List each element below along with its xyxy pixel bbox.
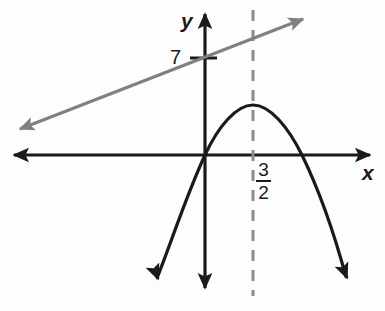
fraction-numerator: 3 — [256, 160, 271, 180]
parabola-right-branch-arrow — [345, 273, 347, 278]
graph-figure: y x 7 3 2 — [0, 0, 385, 311]
linear-function-curve — [20, 19, 303, 129]
y-axis-label: y — [181, 10, 193, 31]
axis-of-symmetry-label-three-halves: 3 2 — [256, 160, 271, 202]
x-axis-label: x — [362, 162, 374, 183]
coordinate-plane-svg — [0, 0, 385, 311]
y-intercept-label-7: 7 — [170, 47, 181, 67]
parabola-left-branch-arrow — [156, 274, 158, 279]
fraction-denominator: 2 — [256, 182, 271, 202]
